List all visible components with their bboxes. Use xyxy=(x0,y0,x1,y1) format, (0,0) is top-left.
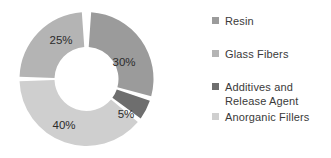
legend-item-label: Glass Fibers xyxy=(225,47,289,61)
donut-slice-label: 30% xyxy=(112,56,135,68)
legend-swatch-icon xyxy=(212,113,219,120)
legend-item-resin[interactable]: Resin xyxy=(212,14,254,28)
donut-slice-label: 5% xyxy=(118,108,135,120)
donut-chart-figure: 30%5%40%25% Resin Glass Fibers Additives… xyxy=(0,0,331,158)
legend-swatch-icon xyxy=(212,83,219,90)
legend-item-anorganic-fillers[interactable]: Anorganic Fillers xyxy=(212,110,309,124)
donut-slice-label: 25% xyxy=(49,34,72,46)
legend-item-additives-and-release-agent[interactable]: Additives and Release Agent xyxy=(212,80,329,108)
legend-item-label: Additives and Release Agent xyxy=(225,80,329,108)
legend-swatch-icon xyxy=(212,17,219,24)
donut-chart-svg: 30%5%40%25% xyxy=(14,5,160,153)
donut-slice-label: 40% xyxy=(52,119,75,131)
legend-item-glass-fibers[interactable]: Glass Fibers xyxy=(212,47,289,61)
legend-swatch-icon xyxy=(212,50,219,57)
legend-item-label: Resin xyxy=(225,14,254,28)
donut-chart-plot-area: 30%5%40%25% xyxy=(14,5,160,153)
donut-slice[interactable] xyxy=(89,12,154,96)
legend-item-label: Anorganic Fillers xyxy=(225,110,309,124)
donut-slices-group xyxy=(20,12,154,146)
